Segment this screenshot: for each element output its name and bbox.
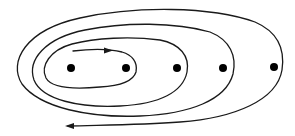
spiral-path <box>17 9 282 126</box>
arrow-left-icon <box>65 123 74 129</box>
point-p1 <box>67 64 75 72</box>
points-group <box>67 63 278 72</box>
spiral-diagram: Expanding spiral trajectory winding arou… <box>0 0 295 136</box>
point-p2 <box>122 64 130 72</box>
arrow-right-icon <box>104 48 113 54</box>
diagram-svg <box>0 0 295 136</box>
point-p3 <box>173 64 181 72</box>
point-p5 <box>270 63 278 71</box>
point-p4 <box>219 64 227 72</box>
